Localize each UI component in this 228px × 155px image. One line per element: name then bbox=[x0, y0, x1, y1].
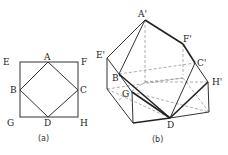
label-g-prime: G bbox=[122, 89, 129, 99]
label-b: B bbox=[10, 85, 17, 95]
diagram-canvas: E A F B C G D H (a) bbox=[0, 0, 228, 155]
label-e-prime: E' bbox=[96, 50, 105, 60]
label-h-prime: H' bbox=[212, 77, 222, 87]
label-h: H bbox=[80, 118, 88, 128]
label-a: A bbox=[43, 52, 51, 62]
label-c-prime: C' bbox=[197, 58, 206, 68]
label-e: E bbox=[3, 57, 10, 67]
label-g: G bbox=[7, 118, 14, 128]
figure-a: E A F B C G D H (a) bbox=[3, 52, 88, 143]
label-d: D bbox=[44, 118, 51, 128]
caption-a: (a) bbox=[38, 134, 49, 143]
label-a-prime: A' bbox=[137, 9, 147, 19]
label-c: C bbox=[80, 85, 87, 95]
label-f-prime: F' bbox=[183, 34, 192, 44]
outer-square bbox=[20, 62, 78, 117]
figure-b: A' E' F' C' B' H' G D (b) bbox=[96, 9, 222, 144]
label-b-prime: B' bbox=[112, 73, 121, 83]
caption-b: (b) bbox=[152, 135, 163, 144]
label-d-prime: D bbox=[167, 120, 174, 130]
inner-rhombus bbox=[20, 62, 78, 117]
label-f: F bbox=[81, 57, 87, 67]
